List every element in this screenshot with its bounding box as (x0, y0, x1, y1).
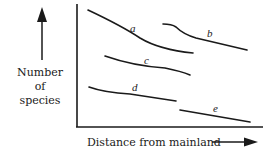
curve-label-d: d (132, 81, 138, 93)
x-axis-label: Distance from mainland (87, 136, 221, 149)
y-arrow-icon (37, 7, 47, 60)
y-axis-label-line3: species (19, 94, 60, 107)
curve-label-b: b (207, 27, 213, 39)
y-axis-label-line1: Number (17, 66, 64, 79)
curve-b (163, 24, 247, 50)
curve-label-c: c (144, 54, 149, 66)
species-distance-diagram: Number of species a b c d e Distance fro… (0, 0, 278, 153)
curve-label-e: e (213, 102, 218, 114)
y-axis-label-line2: of (35, 80, 47, 93)
curve-label-a: a (130, 22, 136, 34)
curve-a (88, 10, 193, 53)
